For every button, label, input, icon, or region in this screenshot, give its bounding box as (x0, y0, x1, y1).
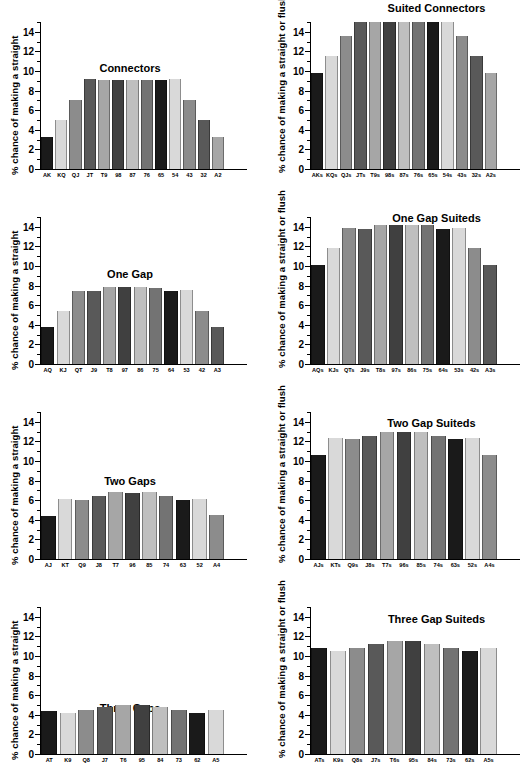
bar[interactable] (362, 436, 377, 559)
bar[interactable] (397, 432, 412, 559)
bar[interactable] (55, 120, 67, 169)
bar[interactable] (456, 36, 468, 169)
bar[interactable] (58, 499, 72, 559)
bar[interactable] (69, 100, 81, 169)
bar[interactable] (180, 290, 193, 364)
bar[interactable] (126, 80, 138, 169)
bar[interactable] (183, 100, 195, 169)
bar[interactable] (103, 287, 116, 364)
bar[interactable] (328, 438, 343, 559)
bar[interactable] (212, 137, 224, 169)
bar[interactable] (75, 500, 89, 559)
bar[interactable] (470, 56, 482, 169)
bar[interactable] (405, 225, 418, 364)
bar[interactable] (195, 311, 208, 364)
y-tick-major (35, 559, 40, 560)
bar[interactable] (330, 651, 346, 754)
bar[interactable] (92, 496, 106, 559)
bar[interactable] (311, 648, 327, 754)
x-tick-label: T9s (368, 172, 382, 178)
bar[interactable] (443, 648, 459, 754)
bar[interactable] (436, 229, 449, 364)
bar[interactable] (340, 36, 352, 169)
bar[interactable] (414, 432, 429, 559)
bar[interactable] (149, 288, 162, 364)
bar[interactable] (60, 713, 76, 754)
bar[interactable] (208, 710, 224, 754)
bar[interactable] (389, 225, 402, 364)
bar[interactable] (368, 644, 384, 754)
bar[interactable] (342, 228, 355, 364)
bar[interactable] (468, 248, 481, 364)
bar[interactable] (198, 120, 210, 169)
bar[interactable] (483, 265, 496, 364)
bar[interactable] (311, 265, 324, 364)
bar[interactable] (465, 438, 480, 559)
bar[interactable] (152, 707, 168, 754)
bar[interactable] (169, 79, 181, 169)
y-tick-label: 0 (6, 554, 34, 565)
bar[interactable] (87, 291, 100, 364)
bar[interactable] (41, 516, 55, 559)
bar[interactable] (98, 80, 110, 169)
bar[interactable] (424, 644, 440, 754)
bar[interactable] (398, 22, 410, 169)
bar[interactable] (405, 641, 421, 754)
bar[interactable] (349, 648, 365, 754)
bar[interactable] (480, 648, 496, 754)
bar[interactable] (108, 492, 122, 559)
bar[interactable] (84, 79, 96, 169)
bar[interactable] (327, 248, 340, 364)
bar[interactable] (115, 705, 131, 754)
bar[interactable] (41, 137, 53, 169)
bar[interactable] (431, 436, 446, 559)
bar[interactable] (125, 493, 139, 559)
bar[interactable] (164, 291, 177, 364)
bar[interactable] (211, 327, 224, 364)
bar[interactable] (482, 455, 497, 559)
bar[interactable] (374, 225, 387, 364)
bar[interactable] (189, 713, 205, 754)
bar[interactable] (441, 22, 453, 169)
bar[interactable] (171, 710, 187, 754)
bar[interactable] (345, 439, 360, 559)
bar[interactable] (112, 80, 124, 169)
bar[interactable] (387, 641, 403, 754)
bar[interactable] (141, 80, 153, 169)
bar[interactable] (427, 22, 439, 169)
bar[interactable] (41, 327, 54, 364)
bar[interactable] (421, 225, 434, 364)
bar[interactable] (118, 287, 131, 364)
bar[interactable] (159, 496, 173, 559)
bar[interactable] (448, 439, 463, 559)
bar[interactable] (192, 499, 206, 559)
bar[interactable] (134, 705, 150, 754)
bar[interactable] (142, 492, 156, 559)
bar[interactable] (452, 228, 465, 364)
bar[interactable] (155, 80, 167, 169)
bar[interactable] (354, 22, 366, 169)
y-tick-minor (37, 451, 40, 452)
bar[interactable] (57, 311, 70, 364)
bar-slot (117, 217, 132, 364)
bar[interactable] (41, 711, 57, 754)
bar[interactable] (176, 500, 190, 559)
bar[interactable] (78, 710, 94, 754)
bar[interactable] (383, 22, 395, 169)
bar[interactable] (485, 73, 497, 169)
y-axis-line (310, 412, 311, 559)
bar[interactable] (462, 651, 478, 754)
bar[interactable] (311, 73, 323, 169)
bar[interactable] (369, 22, 381, 169)
bar[interactable] (134, 287, 147, 364)
bar[interactable] (311, 455, 326, 559)
y-tick-minor (37, 646, 40, 647)
bar[interactable] (72, 291, 85, 365)
bar[interactable] (380, 432, 395, 559)
bar[interactable] (325, 56, 337, 169)
bar[interactable] (412, 22, 424, 169)
x-tick-label: KQs (324, 172, 338, 178)
bar[interactable] (209, 515, 223, 559)
bar[interactable] (358, 229, 371, 364)
bar[interactable] (97, 707, 113, 754)
